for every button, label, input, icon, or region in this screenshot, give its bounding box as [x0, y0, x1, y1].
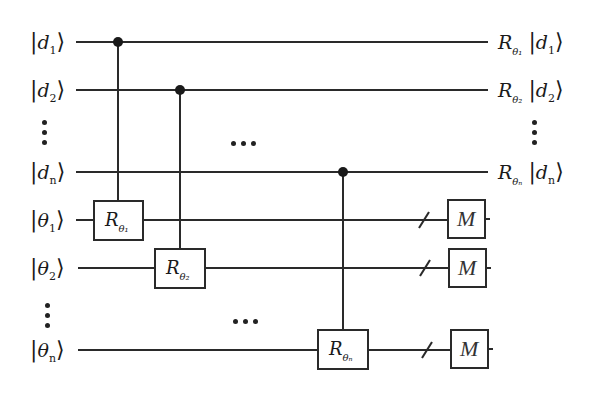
input-label-d2: |d2⟩ — [30, 79, 65, 104]
control-dot-d2 — [175, 85, 185, 95]
horizontal-ellipsis-bottom — [233, 309, 263, 328]
vertical-ellipsis-output — [532, 120, 538, 150]
vertical-ellipsis-theta — [45, 303, 51, 333]
gate-r-theta2-label: Rθ₂ — [166, 259, 190, 282]
input-label-theta2: |θ2⟩ — [30, 257, 64, 282]
vertical-ellipsis-d — [42, 120, 48, 150]
input-label-thetan: |θn⟩ — [30, 339, 65, 364]
input-label-d1: |d1⟩ — [30, 31, 65, 56]
control-dot-d1 — [113, 37, 123, 47]
gate-r-theta1-label: Rθ₁ — [105, 211, 129, 234]
input-label-dn: |dn⟩ — [30, 161, 65, 186]
output-label-dn: Rθₙ |dn⟩ — [498, 161, 564, 187]
quantum-circuit-diagram — [0, 0, 592, 393]
output-label-d2: Rθ₂ |d2⟩ — [498, 79, 564, 105]
control-dot-dn — [338, 167, 348, 177]
output-label-d1: Rθ₁ |d1⟩ — [498, 31, 564, 57]
horizontal-ellipsis-top — [231, 131, 261, 150]
measure-label-theta2: M — [458, 257, 476, 279]
measure-label-theta1: M — [457, 208, 475, 230]
input-label-theta1: |θ1⟩ — [30, 209, 64, 234]
measure-label-thetan: M — [460, 338, 478, 360]
gate-r-thetan-label: Rθₙ — [329, 340, 353, 363]
